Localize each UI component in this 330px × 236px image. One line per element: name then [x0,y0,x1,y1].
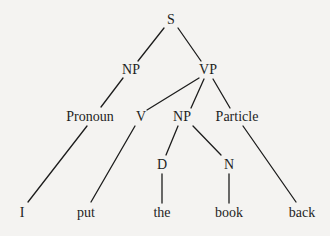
word-put: put [77,205,95,221]
node-d: D [157,157,167,173]
node-s: S [167,12,175,28]
node-np-subject: NP [122,62,140,78]
edge-s-np1 [138,28,164,61]
edge-np1-pronoun [101,78,123,107]
edge-np2-d [166,126,178,155]
edge-particle-w_back [243,126,296,202]
word-back: back [289,205,315,221]
edge-s-vp [178,28,201,61]
word-the: the [153,205,170,221]
edge-vp-np2 [191,79,204,108]
edge-pronoun-w_i [28,126,87,202]
edge-np2-n [193,126,221,155]
edge-v-w_put [91,126,135,202]
node-n: N [224,157,234,173]
node-v: V [136,109,146,125]
node-pronoun: Pronoun [66,109,113,125]
word-i: I [20,205,25,221]
word-book: book [215,205,243,221]
edge-vp-particle [213,79,230,108]
tree-edges [0,0,330,236]
syntax-tree-diagram: S NP VP Pronoun V NP Particle D N I put … [0,0,330,236]
node-np-object: NP [173,109,191,125]
node-vp: VP [199,62,217,78]
edge-vp-v [147,78,199,110]
node-particle: Particle [216,109,259,125]
